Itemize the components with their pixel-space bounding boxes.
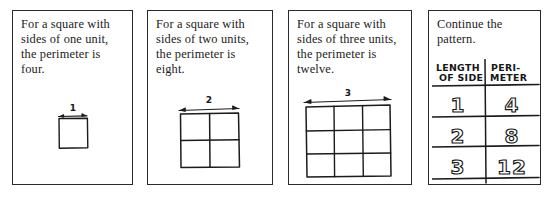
square-diagram-2x2: 2 [162, 88, 258, 176]
panel-one-unit: For a square with sides of one unit, the… [12, 10, 133, 185]
panel-one-figure: 1 [13, 88, 132, 184]
table-header-side-line2: OF SIDE [439, 72, 483, 83]
panel-two-units: For a square with sides of two units, th… [147, 10, 273, 185]
panel-three-caption: For a square with sides of three units, … [289, 11, 411, 77]
square-grid-2 [181, 113, 240, 168]
square-grid-3 [306, 105, 391, 177]
table-cell-side-1: 1 [451, 93, 466, 117]
table-cell-perimeter-1: 4 [505, 93, 520, 117]
dimension-arrow-1 [58, 113, 87, 118]
panel-two-figure: 2 [148, 88, 272, 184]
table-header-perimeter-line2: METER [490, 72, 528, 83]
square-outline-1 [59, 118, 88, 148]
table-cell-perimeter-2: 8 [505, 124, 520, 148]
worksheet-board: For a square with sides of one unit, the… [0, 0, 553, 199]
square-diagram-3x3: 3 [295, 88, 405, 184]
dimension-label-3: 3 [345, 88, 351, 98]
table-rule-row1 [433, 116, 540, 118]
table-rule-row2 [433, 146, 540, 148]
dimension-label-2: 2 [206, 95, 212, 105]
square-diagram-1x1: 1 [38, 88, 108, 168]
dimension-arrow-2 [179, 105, 239, 112]
panel-continue-pattern: Continue the pattern. LENGTH OF SIDE PER… [428, 10, 541, 185]
panel-one-caption: For a square with sides of one unit, the… [13, 11, 132, 77]
panel-four-caption: Continue the pattern. [429, 11, 540, 49]
panel-three-figure: 3 [289, 88, 411, 184]
pattern-table-svg: LENGTH OF SIDE PERI- METER 1 4 2 8 3 [432, 59, 540, 185]
panel-two-caption: For a square with sides of two units, th… [148, 11, 272, 77]
table-cell-perimeter-3: 12 [497, 155, 527, 179]
dimension-label-1: 1 [69, 103, 75, 113]
pattern-table: LENGTH OF SIDE PERI- METER 1 4 2 8 3 [432, 59, 537, 183]
table-cell-side-2: 2 [451, 124, 466, 148]
table-cell-side-3: 3 [451, 155, 466, 179]
table-column-divider [485, 60, 486, 184]
table-rule-header [433, 85, 540, 87]
panel-three-units: For a square with sides of three units, … [288, 10, 412, 185]
